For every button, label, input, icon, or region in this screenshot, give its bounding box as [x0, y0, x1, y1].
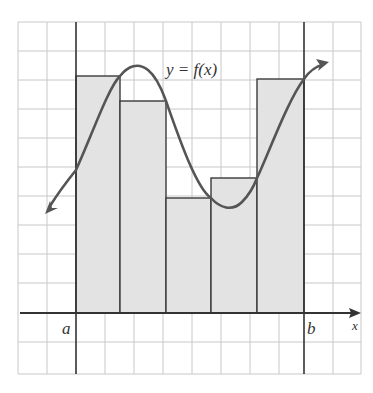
bound-a-label: a: [62, 319, 71, 338]
curve-right-arrow-icon: [316, 59, 329, 71]
riemann-sum-diagram: y = f(x) a b x: [0, 0, 373, 393]
bound-b-label: b: [307, 319, 316, 338]
rectangle-5: [257, 79, 304, 313]
rectangle-4: [211, 178, 257, 313]
riemann-rectangles: [76, 76, 304, 313]
rectangle-2: [120, 101, 166, 313]
rectangle-3: [166, 198, 211, 313]
x-axis-label: x: [351, 318, 358, 333]
curve-label: y = f(x): [164, 60, 217, 79]
rectangle-1: [76, 76, 120, 313]
